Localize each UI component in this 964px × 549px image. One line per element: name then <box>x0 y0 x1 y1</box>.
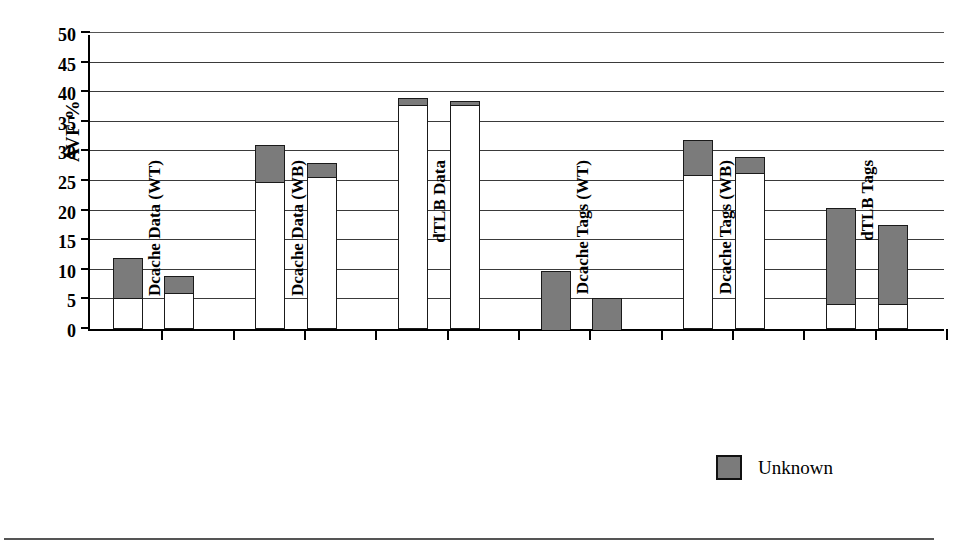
y-axis-tick-label: 45 <box>30 56 76 74</box>
bar-segment-unknown <box>593 299 621 330</box>
y-axis-tick <box>81 327 90 329</box>
y-axis-tick <box>81 61 90 63</box>
x-axis-category-label: dTLB Data <box>430 160 454 350</box>
chart-figure: AVF % 05101520253035404550 Dcache Data (… <box>0 0 964 549</box>
gridline <box>90 269 944 270</box>
gridline <box>90 121 944 122</box>
y-axis-tick-label: 25 <box>30 174 76 192</box>
y-axis-tick-label: 0 <box>30 322 76 340</box>
gridline <box>90 150 944 151</box>
x-axis-tick <box>375 329 377 340</box>
gridline <box>90 91 944 92</box>
y-axis-tick <box>81 179 90 181</box>
y-axis-tick <box>81 238 90 240</box>
y-axis-tick-label: 5 <box>30 292 76 310</box>
y-axis-tick-label: 15 <box>30 233 76 251</box>
bar <box>826 208 856 329</box>
x-axis-category-label: dTLB Tags <box>858 160 882 350</box>
gridline <box>90 180 944 181</box>
x-axis-category-label: Dcache Tags (WB) <box>716 160 740 350</box>
legend-label-unknown: Unknown <box>758 457 833 479</box>
gridline <box>90 239 944 240</box>
y-axis-tick <box>81 120 90 122</box>
gridline <box>90 62 944 63</box>
bar-segment-unknown <box>114 259 142 299</box>
chart-legend: Unknown <box>716 455 833 480</box>
bar-segment-unknown <box>451 102 479 106</box>
x-axis-category-label: Dcache Tags (WT) <box>573 160 597 350</box>
gridline <box>90 32 944 33</box>
bar-segment-unknown <box>736 158 764 173</box>
bar-segment-unknown <box>399 99 427 106</box>
bar-segment-unknown <box>256 146 284 183</box>
bar <box>255 145 285 329</box>
gridline <box>90 298 944 299</box>
x-axis-category-label: Dcache Data (WB) <box>288 160 312 350</box>
x-axis-tick <box>661 329 663 340</box>
bar <box>878 225 908 329</box>
y-axis-tick <box>81 31 90 33</box>
y-axis-tick-label: 50 <box>30 26 76 44</box>
bar <box>683 140 713 329</box>
bar <box>450 101 480 329</box>
y-axis-tick-label: 10 <box>30 263 76 281</box>
bar <box>541 271 571 329</box>
y-axis-tick-label: 30 <box>30 144 76 162</box>
x-axis-tick <box>233 329 235 340</box>
bar <box>113 258 143 329</box>
y-axis-tick-label: 35 <box>30 115 76 133</box>
y-axis-tick <box>81 149 90 151</box>
x-axis-tick <box>803 329 805 340</box>
bar <box>398 98 428 329</box>
y-axis-tick <box>81 297 90 299</box>
y-axis-tick <box>81 268 90 270</box>
bar-segment-unknown <box>879 226 907 305</box>
bar-segment-unknown <box>542 272 570 330</box>
gridline <box>90 210 944 211</box>
legend-swatch-unknown <box>716 455 742 480</box>
x-axis-tick <box>518 329 520 340</box>
bar-segment-unknown <box>308 164 336 178</box>
bar-segment-unknown <box>827 209 855 305</box>
y-axis-tick <box>81 209 90 211</box>
bar-segment-unknown <box>684 141 712 177</box>
bar-segment-unknown <box>165 277 193 295</box>
y-axis-tick <box>81 90 90 92</box>
x-axis-category-label: Dcache Data (WT) <box>145 160 169 350</box>
x-axis-tick <box>946 329 948 340</box>
plot-area <box>88 35 944 331</box>
y-axis-tick-label: 40 <box>30 85 76 103</box>
y-axis-tick-label: 20 <box>30 204 76 222</box>
footer-divider <box>4 538 934 540</box>
